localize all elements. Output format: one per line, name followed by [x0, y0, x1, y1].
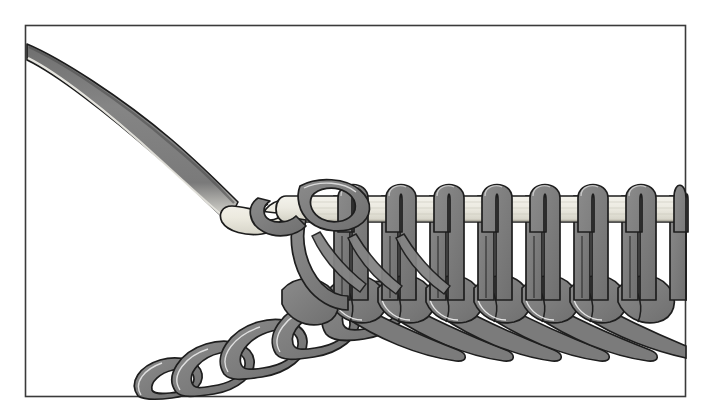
illustration-canvas: Tunisian crochet hook holding loops: [0, 0, 708, 419]
crochet-illustration-svg: [0, 0, 708, 419]
